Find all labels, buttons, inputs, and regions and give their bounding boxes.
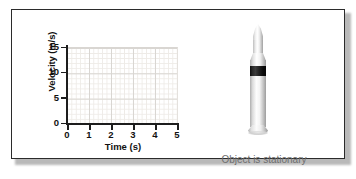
screenshot-root: Velocity (m/s) 15 10 5 0 <box>0 0 356 179</box>
y-tick-label: 5 <box>33 93 59 103</box>
framed-panel: Velocity (m/s) 15 10 5 0 <box>11 9 345 159</box>
y-tick-label: 15 <box>33 42 59 52</box>
x-tick-label: 1 <box>82 130 96 140</box>
x-axis-line <box>66 123 179 125</box>
rocket-object-illustration <box>244 24 282 140</box>
y-tick-mark <box>61 97 67 99</box>
rocket-nose-cone-icon <box>253 24 263 41</box>
y-tick-mark <box>61 123 67 125</box>
plot-grid-area <box>67 47 178 124</box>
y-tick-label: 0 <box>33 118 59 128</box>
velocity-time-chart: Velocity (m/s) 15 10 5 0 <box>26 26 201 151</box>
rocket-body <box>250 76 266 127</box>
y-axis-line <box>66 45 68 125</box>
object-status-caption: Object is stationary <box>190 154 338 165</box>
y-tick-mark <box>61 47 67 49</box>
y-tick-mark <box>61 72 67 74</box>
y-tick-label: 10 <box>33 67 59 77</box>
x-tick-label: 5 <box>170 130 184 140</box>
x-axis-title: Time (s) <box>67 141 179 152</box>
x-tick-label: 0 <box>60 130 74 140</box>
x-tick-label: 4 <box>148 130 162 140</box>
x-tick-label: 3 <box>126 130 140 140</box>
x-tick-label: 2 <box>104 130 118 140</box>
rocket-base-shadow <box>248 131 268 135</box>
rocket-neck <box>253 40 263 54</box>
